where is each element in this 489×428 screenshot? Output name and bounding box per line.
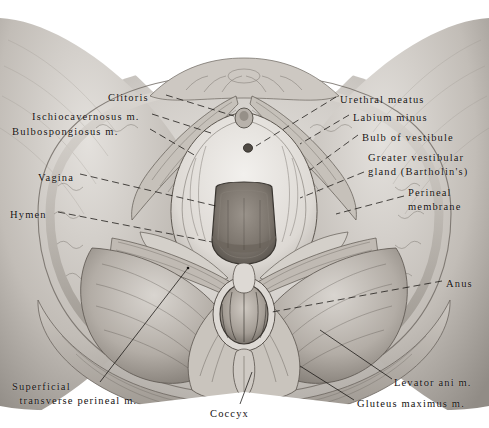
perineum-illustration (0, 0, 489, 428)
label-perineal-membrane: Perineal membrane (408, 186, 462, 213)
label-clitoris: Clitoris (108, 91, 149, 104)
label-bulb-of-vestibule: Bulb of vestibule (362, 131, 454, 144)
anatomy-plate: Clitoris Ischiocavernosus m. Bulbospongi… (0, 0, 489, 428)
label-greater-vestibular-gland: Greater vestibular gland (Bartholin's) (368, 151, 468, 178)
label-bulbospongiosus-muscle: Bulbospongiosus m. (12, 125, 118, 138)
label-labium-minus: Labium minus (353, 111, 428, 124)
label-vagina: Vagina (38, 171, 74, 184)
label-levator-ani-muscle: Levator ani m. (394, 376, 472, 389)
clitoris (235, 108, 253, 128)
urethral-meatus (243, 144, 252, 152)
label-hymen: Hymen (10, 208, 47, 221)
vagina (212, 182, 276, 264)
label-coccyx: Coccyx (210, 407, 249, 420)
label-ischiocavernosus-muscle: Ischiocavernosus m. (32, 110, 140, 123)
sacrococcygeal-region (233, 349, 255, 395)
label-anus: Anus (446, 277, 473, 290)
perineal-body (233, 263, 255, 293)
label-urethral-meatus: Urethral meatus (340, 93, 425, 106)
label-gluteus-maximus-muscle: Gluteus maximus m. (357, 397, 465, 410)
label-superficial-transverse-perineal-muscle: Superficial transverse perineal m. (12, 380, 137, 407)
